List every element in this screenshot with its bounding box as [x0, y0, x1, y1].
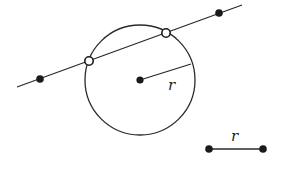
secant-line — [17, 5, 242, 87]
intersection-point-1 — [162, 29, 170, 37]
intersection-point-0 — [85, 57, 93, 65]
line-point-1 — [215, 9, 223, 17]
diagram-canvas: r r — [0, 0, 283, 169]
line-point-0 — [36, 75, 44, 83]
radius-label: r — [168, 76, 176, 94]
reference-endpoint-right — [259, 145, 267, 153]
center-point — [136, 76, 143, 83]
reference-endpoint-left — [205, 145, 213, 153]
radius-segment — [140, 64, 191, 80]
reference-label: r — [231, 127, 239, 145]
